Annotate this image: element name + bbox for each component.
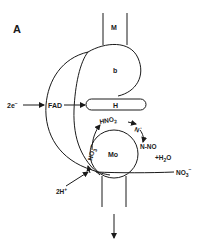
heme-domain: b: [88, 44, 141, 96]
nitrate-bound-label: NO3−: [84, 144, 99, 162]
hinge-domain: H: [86, 99, 146, 110]
nitrate-input-line: [96, 172, 174, 173]
b-label: b: [113, 67, 117, 74]
arrow-hno2-to-n: [128, 122, 136, 124]
hno2-label: HNO2: [99, 115, 118, 127]
nitrate-reductase-diagram: A M b 2e− FAD H Mo NO3− HNO2 N· N-NO +H2…: [0, 0, 202, 247]
protons-label: 2H+: [56, 186, 67, 195]
panel-label: A: [13, 23, 21, 35]
arrow-n-to-nno: [140, 130, 143, 142]
electrons-label: 2e−: [7, 100, 18, 109]
molybdenum-domain: Mo: [90, 130, 138, 178]
water-label: +H2O: [155, 154, 171, 163]
fad-label: FAD: [48, 102, 62, 109]
m-label: M: [111, 24, 117, 31]
mo-label: Mo: [108, 151, 118, 158]
proton-arrow: [66, 172, 88, 186]
h-label: H: [113, 102, 118, 109]
nitrate-in-label: NO3−: [176, 166, 192, 178]
outer-loop: [46, 52, 110, 175]
nno-label: N-NO: [140, 143, 157, 150]
bottom-channel: [102, 176, 126, 207]
membrane-anchor-domain: M: [103, 13, 127, 45]
